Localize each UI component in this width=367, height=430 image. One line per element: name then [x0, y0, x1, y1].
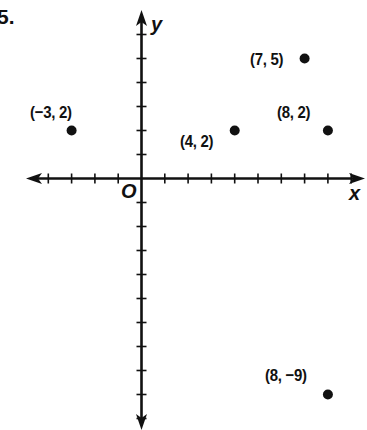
problem-number: 5. [0, 6, 15, 27]
data-point-dot [230, 126, 240, 136]
data-point-dot [323, 126, 333, 136]
x-axis-label: x [349, 183, 360, 203]
origin-label: O [121, 181, 137, 201]
point-label: (−3, 2) [30, 104, 72, 121]
axes [26, 10, 365, 430]
y-axis-label: y [151, 14, 162, 34]
data-point-dot [323, 390, 333, 400]
coordinate-plane [0, 0, 367, 430]
point-label: (4, 2) [180, 133, 213, 150]
axis-ticks [48, 35, 351, 419]
point-label: (8, 2) [277, 104, 310, 121]
data-point-dot [67, 126, 77, 136]
point-label: (8, −9) [265, 367, 307, 384]
coordinate-plane-figure: 5. y x O (−3, 2) (4, 2) (7, 5) (8, 2) (8… [0, 0, 367, 430]
data-point-dot [300, 54, 310, 64]
point-label: (7, 5) [250, 51, 283, 68]
